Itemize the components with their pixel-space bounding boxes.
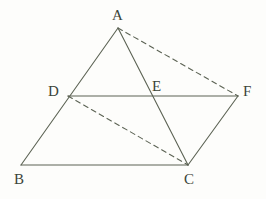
geometry-canvas (0, 0, 266, 199)
vertex-label-A: A (112, 8, 123, 23)
vertex-label-D: D (48, 84, 59, 99)
geometry-figure: A B C D E F (0, 0, 266, 199)
vertex-label-B: B (14, 172, 24, 187)
segment-CF (188, 96, 238, 165)
vertex-label-C: C (184, 172, 194, 187)
segment-AF (118, 28, 238, 96)
vertex-label-E: E (152, 79, 161, 94)
vertex-label-F: F (243, 84, 251, 99)
